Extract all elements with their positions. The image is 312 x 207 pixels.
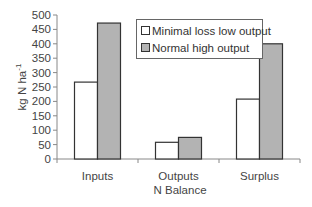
y-tick-label: 0 — [45, 153, 51, 165]
y-tick-label: 350 — [32, 52, 51, 64]
legend-swatch-white — [141, 26, 150, 35]
y-axis: 050100150200250300350400450500 — [32, 9, 57, 165]
y-tick-label: 100 — [32, 124, 51, 136]
bar — [237, 99, 260, 159]
legend-label: Minimal loss low output — [152, 25, 271, 37]
legend-swatch-gray — [141, 43, 150, 52]
bar — [260, 44, 283, 159]
y-tick-label: 200 — [32, 95, 51, 107]
bar — [156, 142, 179, 159]
x-category-label: Surplus — [240, 170, 279, 182]
legend-item-minimal-loss: Minimal loss low output — [141, 22, 258, 39]
x-category-label: Outputs — [158, 170, 199, 182]
legend: Minimal loss low output Normal high outp… — [136, 19, 263, 59]
legend-item-normal-high: Normal high output — [141, 39, 258, 56]
y-tick-label: 250 — [32, 81, 51, 93]
y-tick-label: 150 — [32, 110, 51, 122]
y-tick-label: 450 — [32, 23, 51, 35]
y-tick-label: 300 — [32, 67, 51, 79]
x-category-label: Inputs — [82, 170, 114, 182]
y-tick-label: 400 — [32, 38, 51, 50]
x-axis-title: N Balance — [153, 184, 206, 196]
y-tick-label: 500 — [32, 9, 51, 21]
bar — [75, 82, 98, 159]
y-tick-label: 50 — [38, 139, 51, 151]
y-axis-title: kg N ha-1 — [14, 63, 28, 110]
bar — [98, 23, 121, 159]
x-axis: InputsOutputsSurplus — [57, 159, 300, 182]
bar — [179, 137, 202, 159]
legend-label: Normal high output — [152, 42, 249, 54]
